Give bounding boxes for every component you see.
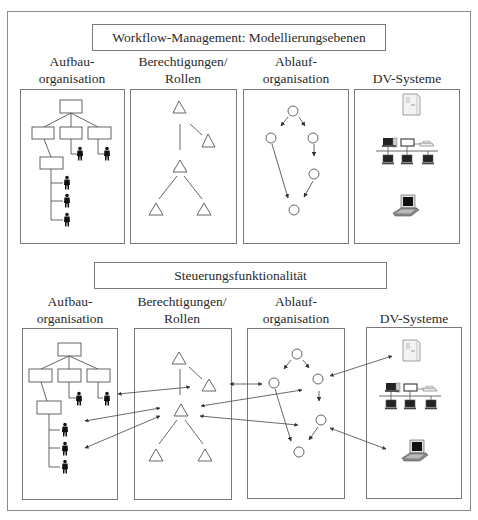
diagram-graphics <box>0 0 478 520</box>
bottom-process-flow <box>269 349 326 457</box>
top-org-chart-icon <box>32 100 111 220</box>
bottom-org-chart-icon <box>29 343 110 467</box>
top-network-icon <box>376 138 438 164</box>
bottom-role-triangles <box>149 352 216 461</box>
top-person-icons <box>64 147 110 227</box>
control-arrows <box>85 356 392 449</box>
top-process-flow <box>266 106 319 215</box>
bottom-laptop-icon <box>402 440 428 461</box>
bottom-person-icons <box>62 392 110 474</box>
top-role-triangles <box>149 101 215 215</box>
bottom-network-icon <box>379 383 441 409</box>
top-server-icon <box>403 94 420 115</box>
top-laptop-icon <box>393 195 419 216</box>
bottom-server-icon <box>403 340 420 361</box>
